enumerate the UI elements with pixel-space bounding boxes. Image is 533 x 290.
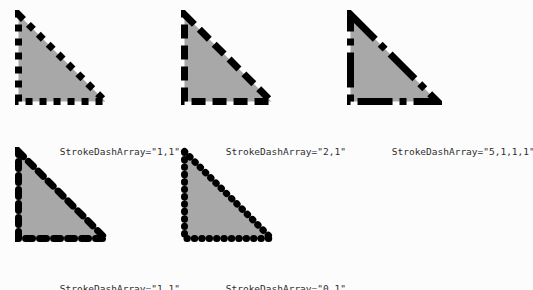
caption-dash-1-1-triangle: StrokeDashArray="1,1" StrokeDashCap="Tri… bbox=[14, 245, 179, 290]
caption-prefix: StrokeDashArray="0,1" bbox=[226, 283, 346, 290]
example-cell-dash-0-1-triangle: StrokeDashArray="0,1" StrokeDashCap="Tri… bbox=[180, 147, 345, 290]
caption-dash-0-1-triangle: StrokeDashArray="0,1" StrokeDashCap="Tri… bbox=[180, 245, 345, 290]
triangle-figure-dash-5-1-1-1-flat bbox=[346, 10, 442, 106]
triangle-figure-dash-2-1-flat bbox=[180, 10, 276, 106]
triangle-figure-dash-1-1-triangle bbox=[14, 147, 110, 243]
caption-line: StrokeDashArray="0,1" bbox=[180, 270, 345, 290]
triangle-figure-dash-1-1-flat bbox=[14, 10, 110, 106]
caption-dash-5-1-1-1-flat: StrokeDashArray="5,1,1,1" bbox=[346, 108, 511, 196]
example-cell-dash-5-1-1-1-flat: StrokeDashArray="5,1,1,1" bbox=[346, 10, 511, 196]
examples-board: StrokeDashArray="1,1" StrokeDashArray="2… bbox=[0, 0, 533, 290]
caption-line: StrokeDashArray="5,1,1,1" bbox=[346, 133, 511, 171]
example-cell-dash-1-1-triangle: StrokeDashArray="1,1" StrokeDashCap="Tri… bbox=[14, 147, 179, 290]
triangle-fill bbox=[185, 15, 272, 102]
caption-prefix: StrokeDashArray="5,1,1,1" bbox=[392, 146, 533, 157]
caption-line: StrokeDashArray="1,1" bbox=[14, 270, 179, 290]
triangle-figure-dash-0-1-triangle bbox=[180, 147, 276, 243]
caption-prefix: StrokeDashArray="1,1" bbox=[60, 283, 180, 290]
